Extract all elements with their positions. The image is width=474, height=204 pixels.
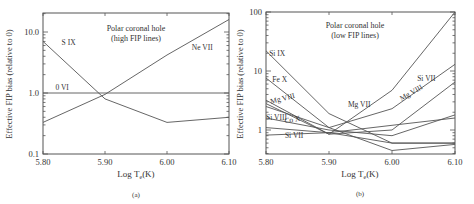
x-tick-label: 6.00	[160, 157, 175, 167]
y-tick-label: 10.0	[24, 27, 39, 37]
x-tick-label: 6.00	[385, 157, 400, 167]
y-tick-label: 100	[249, 7, 262, 17]
panel-b-subtitle: (low FIP lines)	[331, 31, 379, 40]
y-tick-label: 10	[254, 66, 263, 76]
panel-a-label: (a)	[132, 191, 140, 199]
series-label: Mg VIII	[398, 82, 425, 103]
panel-b-ylabel: Effective FIP bias (relative to 0)	[235, 29, 245, 138]
series-label: Co X	[284, 113, 302, 125]
series-label: Si VII	[417, 74, 436, 83]
panel-a-subtitle: (high FIP lines)	[111, 34, 161, 43]
y-tick-label: 1	[258, 125, 262, 135]
series-label: Mg VII	[348, 100, 371, 109]
x-tick-label: 5.90	[98, 157, 113, 167]
series-label: Si IX	[269, 49, 286, 58]
series-label: Fe X	[272, 75, 287, 84]
panel-b-label: (b)	[356, 190, 365, 198]
panel-a-chart: 5.805.906.006.100.11.010.0 S IXNe VII0 V…	[4, 13, 236, 199]
panel-a-ylabel: Effective FIP bias (relative to 0)	[4, 29, 14, 138]
x-tick-label: 6.10	[222, 157, 237, 167]
panel-a-xlabel: Log Te(K)	[117, 169, 154, 180]
panel-b-title: Polar coronal hole	[326, 21, 385, 30]
series-label: S IX	[62, 38, 77, 47]
panel-b-chart: 5.805.906.006.10110100 Si IXFe XMg VIIIM…	[235, 7, 462, 198]
y-tick-label: 0.1	[28, 149, 39, 159]
series-label: Mg VIII	[269, 91, 296, 106]
panel-b-xlabel: Log Te(K)	[341, 169, 378, 180]
panel-b-series-labels: Si IXFe XMg VIIIMg VIISi VIIMg VIIISi VI…	[266, 49, 436, 140]
figure: 5.805.906.006.100.11.010.0 S IXNe VII0 V…	[0, 0, 474, 204]
panel-a-title: Polar coronal hole	[107, 24, 166, 33]
series-label: Si VII	[285, 131, 304, 140]
x-tick-label: 6.10	[448, 157, 463, 167]
y-tick-label: 1.0	[28, 88, 39, 98]
x-tick-label: 5.90	[322, 157, 337, 167]
panel-a-series-labels: S IXNe VII0 VI	[55, 38, 213, 92]
series-label: 0 VI	[55, 83, 69, 92]
x-tick-label: 5.80	[259, 157, 274, 167]
series-label: Ne VII	[192, 43, 213, 52]
